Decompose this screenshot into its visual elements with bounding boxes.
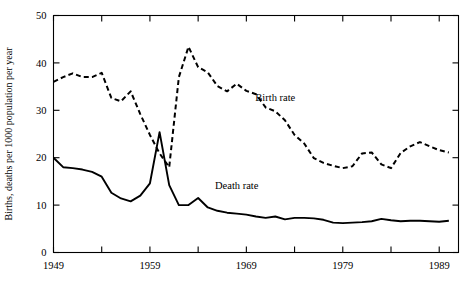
chart-figure: 01020304050 19491959196919791989 Birth r… [0, 0, 467, 281]
x-tick-label: 1959 [139, 260, 160, 271]
chart-background [0, 0, 467, 281]
x-tick-label: 1989 [429, 260, 450, 271]
x-tick-label: 1949 [43, 260, 64, 271]
x-tick-label: 1969 [236, 260, 257, 271]
x-tick-label: 1979 [332, 260, 353, 271]
y-tick-label: 10 [36, 200, 47, 211]
y-axis-title: Births, deaths per 1000 population per y… [3, 47, 14, 221]
y-tick-label: 50 [36, 10, 47, 21]
y-tick-label: 30 [36, 105, 47, 116]
birth-death-rate-line-chart: 01020304050 19491959196919791989 Birth r… [0, 0, 467, 281]
y-tick-label: 0 [41, 247, 46, 258]
y-tick-label: 20 [36, 152, 47, 163]
y-tick-label: 40 [36, 58, 47, 69]
series-annotation-death-rate: Death rate [215, 180, 259, 191]
series-annotation-birth-rate: Birth rate [255, 92, 295, 103]
